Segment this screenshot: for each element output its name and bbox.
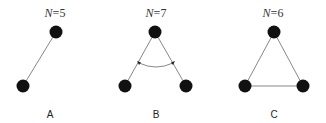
panel-label-c: C — [270, 109, 277, 120]
node-a-top — [50, 26, 63, 39]
n-count-label-c: N=6 — [262, 6, 284, 20]
edge-b-2 — [155, 32, 186, 86]
panel-a: N=5 A — [17, 6, 66, 120]
node-b-top — [149, 26, 162, 39]
node-c-right — [297, 80, 310, 93]
node-b-left — [119, 80, 132, 93]
node-a-bottom — [17, 80, 30, 93]
node-b-right — [180, 80, 193, 93]
n-count-label-b: N=7 — [145, 6, 167, 20]
panel-c: N=6 C — [239, 6, 310, 120]
edge-c-1 — [245, 32, 274, 86]
n-count-label-a: N=5 — [44, 6, 66, 20]
panel-label-a: A — [47, 109, 54, 120]
panel-label-b: B — [153, 109, 160, 120]
node-c-left — [239, 80, 252, 93]
node-c-top — [268, 26, 281, 39]
edge-c-2 — [274, 32, 303, 86]
network-diagrams: N=5 A N=7 B N=6 C — [0, 0, 326, 123]
angle-arc — [139, 63, 173, 67]
edge-b-1 — [125, 32, 155, 86]
edge-a-1 — [23, 32, 56, 86]
panel-b: N=7 B — [119, 6, 193, 120]
